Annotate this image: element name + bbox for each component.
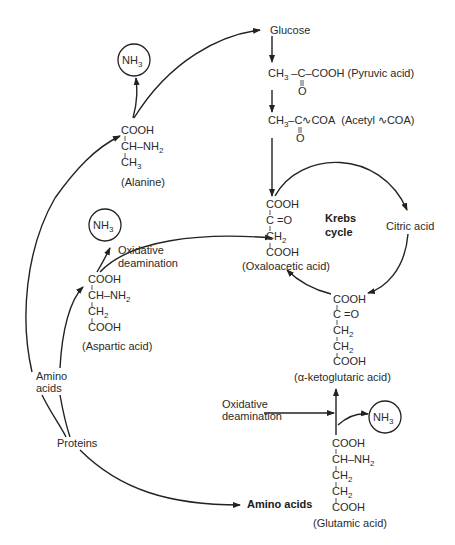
proteins-to-amino-acids-arrow xyxy=(80,450,240,505)
pyruvic-acid: CH3–C–COOH(Pyruvic acid) O xyxy=(268,67,414,97)
svg-text:O: O xyxy=(296,132,305,144)
svg-text:CH–NH2: CH–NH2 xyxy=(88,289,131,304)
oxidative-deamination-1b: deamination xyxy=(118,257,178,269)
glucose-label: Glucose xyxy=(270,24,310,36)
amino-acids-left-1: Amino xyxy=(36,370,67,382)
alanine-to-nh3-arrow xyxy=(133,78,137,118)
svg-text:CH2: CH2 xyxy=(332,485,353,500)
alanine: COOH CH–NH2 CH3 (Alanine) xyxy=(121,124,165,188)
outer-arc xyxy=(26,198,55,372)
svg-text:CH2: CH2 xyxy=(266,230,287,245)
svg-text:(Alanine): (Alanine) xyxy=(121,176,165,188)
svg-text:CH–NH2: CH–NH2 xyxy=(332,453,375,468)
svg-text:CH2: CH2 xyxy=(88,305,109,320)
proteins-link-2 xyxy=(60,395,70,437)
alanine-to-glucose-arrow xyxy=(134,30,260,118)
svg-text:COOH: COOH xyxy=(88,321,121,333)
svg-text:COOH: COOH xyxy=(121,124,154,136)
glutamic-acid: COOH CH–NH2 CH2 CH2 COOH (Glutamic acid) xyxy=(313,437,387,529)
svg-text:(Oxaloacetic acid): (Oxaloacetic acid) xyxy=(242,260,330,272)
krebs-label-1: Krebs xyxy=(325,212,356,224)
svg-text:COOH: COOH xyxy=(88,273,121,285)
nh3-glutamic: NH3 xyxy=(369,401,401,433)
svg-text:CH3: CH3 xyxy=(121,156,142,171)
amino-to-aspartic-arrow xyxy=(60,287,83,368)
svg-text:COOH: COOH xyxy=(332,501,365,513)
svg-text:C =O: C =O xyxy=(333,308,359,320)
amino-to-alanine-arrow xyxy=(55,136,120,198)
svg-text:COOH: COOH xyxy=(266,198,299,210)
proteins-link-1 xyxy=(42,395,66,437)
citric-acid-label: Citric acid xyxy=(386,220,434,232)
svg-text:C =O: C =O xyxy=(266,214,292,226)
svg-text:CH2: CH2 xyxy=(332,469,353,484)
alpha-ketoglutaric-acid: COOH C =O CH2 CH2 COOH (α-ketoglutaric a… xyxy=(294,293,391,383)
svg-text:(Aspartic acid): (Aspartic acid) xyxy=(82,340,152,352)
arrows xyxy=(26,30,408,505)
ketoglutaric-to-oxaloacetic-arrow xyxy=(287,270,331,294)
svg-text:COOH: COOH xyxy=(266,246,299,258)
svg-text:CH2: CH2 xyxy=(333,340,354,355)
aspartic-acid: Oxidative deamination COOH CH–NH2 CH2 CO… xyxy=(82,244,178,352)
oxidative-deamination-2b: deamination xyxy=(222,410,282,422)
oxidative-deamination-1a: Oxidative xyxy=(118,244,164,256)
svg-text:CH2: CH2 xyxy=(333,324,354,339)
nh3-alanine: NH3 xyxy=(118,44,150,76)
svg-text:O: O xyxy=(298,85,307,97)
svg-text:COOH: COOH xyxy=(333,293,366,305)
svg-text:CH–NH2: CH–NH2 xyxy=(121,140,164,155)
amino-acids-left-2: acids xyxy=(36,382,62,394)
amino-acids-bold-label: Amino acids xyxy=(247,498,312,510)
oxaloacetic-acid: COOH C =O CH2 COOH (Oxaloacetic acid) xyxy=(242,198,330,272)
svg-text:CH3–C∿COA(Acetyl ∿COA): CH3–C∿COA(Acetyl ∿COA) xyxy=(268,114,414,129)
svg-text:COOH: COOH xyxy=(332,437,365,449)
svg-text:(α-ketoglutaric acid): (α-ketoglutaric acid) xyxy=(294,371,391,383)
svg-text:CH3–C–COOH(Pyruvic acid): CH3–C–COOH(Pyruvic acid) xyxy=(268,67,414,82)
svg-text:COOH: COOH xyxy=(333,355,366,367)
krebs-label-2: cycle xyxy=(325,226,353,238)
acetyl-coa: CH3–C∿COA(Acetyl ∿COA) O xyxy=(268,114,414,144)
glutamic-to-nh3-arrow xyxy=(338,414,368,425)
oxidative-deamination-2a: Oxidative xyxy=(222,398,268,410)
proteins-label: Proteins xyxy=(57,437,98,449)
svg-text:(Glutamic acid): (Glutamic acid) xyxy=(313,517,387,529)
citric-to-ketoglutaric-arrow xyxy=(368,234,408,293)
nh3-aspartic: NH3 xyxy=(89,209,121,241)
krebs-amino-acid-diagram: NH3 NH3 NH3 Glucose CH3–C–COOH(Pyruvic a… xyxy=(0,0,455,545)
